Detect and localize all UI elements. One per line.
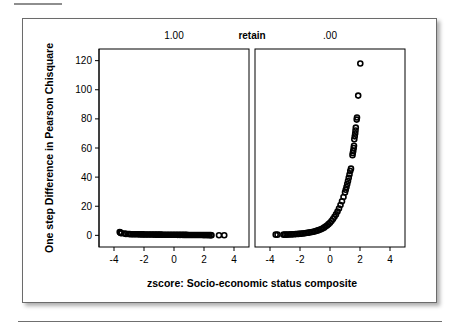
panel-border-1 (255, 49, 405, 247)
data-point (217, 233, 222, 238)
chart-root: 1.00.00retain020406080100120One step Dif… (43, 30, 405, 289)
x-axis-tick-label: 4 (387, 254, 393, 265)
x-axis-tick-label: -4 (266, 254, 275, 265)
x-axis-tick-label: -2 (296, 254, 305, 265)
y-axis-title: One step Difference in Pearson Chisquare (43, 43, 55, 253)
data-point (358, 61, 363, 66)
y-axis-tick-label: 80 (81, 113, 93, 124)
panel-strip-label-0: 1.00 (164, 30, 184, 41)
y-axis-tick-label: 40 (81, 172, 93, 183)
y-axis-tick-label: 20 (81, 201, 93, 212)
data-point (356, 93, 361, 98)
x-axis-tick-label: 0 (171, 254, 177, 265)
x-axis-tick-label: 2 (201, 254, 207, 265)
x-axis-title: zscore: Socio-economic status composite (147, 277, 357, 289)
x-axis-tick-label: -4 (110, 254, 119, 265)
top-divider-rule (14, 3, 62, 5)
x-axis-tick-label: 0 (327, 254, 333, 265)
figure-frame: 1.00.00retain020406080100120One step Dif… (22, 18, 437, 303)
strip-group-label: retain (238, 30, 265, 41)
y-axis-tick-label: 120 (75, 55, 92, 66)
data-points-panel-1 (273, 61, 363, 237)
chart-plot-area: 1.00.00retain020406080100120One step Dif… (23, 19, 438, 304)
y-axis-tick-label: 100 (75, 84, 92, 95)
x-axis-tick-label: 2 (357, 254, 363, 265)
panel-strip-label-1: .00 (323, 30, 337, 41)
x-axis-tick-label: 4 (231, 254, 237, 265)
data-point (222, 233, 227, 238)
panel-border-0 (99, 49, 249, 247)
y-axis-tick-label: 60 (81, 143, 93, 154)
y-axis-tick-label: 0 (86, 230, 92, 241)
bottom-divider-rule (18, 321, 442, 322)
scatter-chart-svg: 1.00.00retain020406080100120One step Dif… (23, 19, 438, 304)
data-points-panel-0 (117, 230, 227, 238)
x-axis-tick-label: -2 (140, 254, 149, 265)
